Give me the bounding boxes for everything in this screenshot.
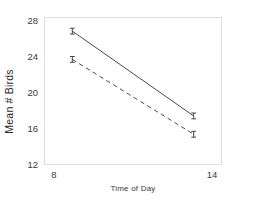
chart-figure: Mean # Birds 28 24 20 16 12 8 14 Time of…	[0, 0, 254, 203]
series-line-dashed-line	[72, 59, 193, 134]
x-axis-title: Time of Day	[44, 184, 222, 193]
error-bar-dashed-line	[191, 131, 196, 137]
error-bar-solid-line	[191, 113, 196, 119]
series-layer	[70, 28, 196, 137]
x-tick-label: 8	[51, 169, 56, 180]
x-tick-label: 14	[207, 169, 218, 180]
error-bar-dashed-line	[70, 56, 75, 62]
error-bar-solid-line	[70, 28, 75, 34]
series-line-solid-line	[72, 31, 193, 116]
